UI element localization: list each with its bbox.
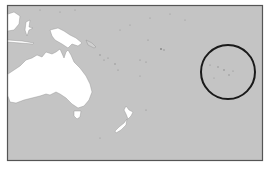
- locator-map: [0, 0, 273, 174]
